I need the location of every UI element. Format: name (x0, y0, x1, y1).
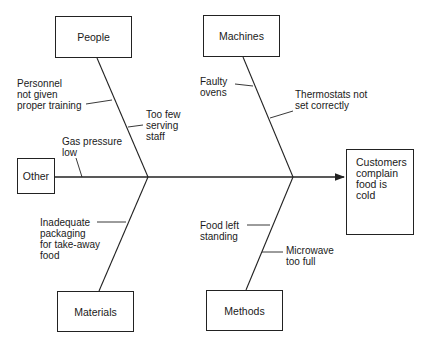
cause-inadequate-packaging: Inadequate packaging for take-away food (40, 217, 100, 261)
cause-thermostats: Thermostats not set correctly (295, 89, 367, 111)
cause-food-left-standing: Food left standing (200, 220, 239, 242)
category-label-other: Other (23, 170, 49, 182)
category-label-methods: Methods (224, 305, 264, 317)
cause-too-few-staff: Too few serving staff (146, 109, 180, 142)
category-box-methods: Methods (206, 290, 283, 331)
category-box-other: Other (17, 158, 55, 194)
category-label-machines: Machines (219, 30, 264, 42)
category-box-machines: Machines (203, 15, 280, 57)
effect-label: Customers complain food is cold (356, 157, 407, 201)
category-box-materials: Materials (57, 291, 134, 332)
bone-methods (246, 177, 293, 290)
bone-machines (243, 57, 293, 177)
tick-personnel (86, 100, 112, 104)
cause-faulty-ovens: Faulty ovens (200, 76, 227, 98)
category-box-people: People (55, 16, 132, 58)
category-label-materials: Materials (74, 306, 117, 318)
bone-materials (99, 177, 148, 291)
tick-gas (76, 158, 82, 177)
effect-box: Customers complain food is cold (346, 149, 414, 235)
category-label-people: People (77, 31, 110, 43)
tick-too-few (128, 125, 143, 127)
cause-gas-pressure-low: Gas pressure low (62, 136, 122, 158)
cause-personnel-training: Personnel not given proper training (17, 78, 81, 111)
bone-people (97, 58, 148, 177)
tick-faulty (235, 84, 253, 86)
cause-microwave-too-full: Microwave too full (286, 245, 334, 267)
tick-thermo (270, 111, 293, 118)
